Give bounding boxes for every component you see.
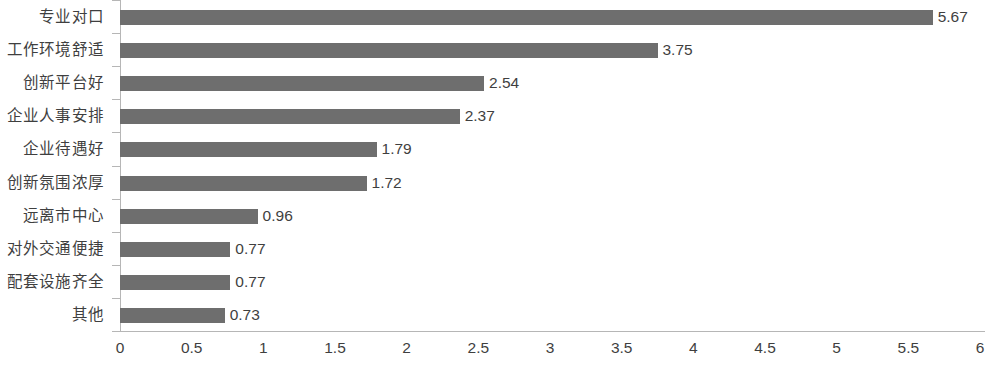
- x-axis-tick-label: 4: [689, 336, 698, 360]
- x-axis-tick-label: 1: [259, 336, 268, 360]
- bar: [120, 43, 658, 58]
- y-axis-category-label: 远离市中心: [23, 208, 104, 224]
- x-axis-tick-label: 0: [116, 336, 125, 360]
- y-axis-tick: [112, 66, 120, 67]
- x-axis-tick-label: 2: [402, 336, 411, 360]
- y-axis-category-label: 对外交通便捷: [7, 241, 104, 257]
- x-axis-tick-label: 5: [832, 336, 841, 360]
- y-axis-tick: [112, 132, 120, 133]
- x-axis-tick-label: 1.5: [324, 336, 346, 360]
- y-axis-category-label: 其他: [72, 307, 104, 323]
- x-axis-tick-label: 6: [976, 336, 985, 360]
- y-axis-category-label: 创新氛围浓厚: [7, 175, 104, 191]
- x-axis-tick-label: 4.5: [754, 336, 776, 360]
- bar-chart: 专业对口工作环境舒适创新平台好企业人事安排企业待遇好创新氛围浓厚远离市中心对外交…: [0, 0, 993, 366]
- bar: [120, 109, 460, 124]
- bar-value-label: 0.96: [263, 208, 293, 224]
- y-axis-category-label: 工作环境舒适: [7, 42, 104, 58]
- y-axis-category-labels: 专业对口工作环境舒适创新平台好企业人事安排企业待遇好创新氛围浓厚远离市中心对外交…: [0, 0, 112, 331]
- x-axis-tick-labels: 00.511.522.533.544.555.56: [0, 336, 993, 364]
- bar: [120, 142, 377, 157]
- bar-value-label: 2.54: [489, 75, 519, 91]
- bar-value-label: 2.37: [465, 108, 495, 124]
- y-axis-tick: [112, 265, 120, 266]
- y-axis-category-label: 专业对口: [39, 9, 104, 25]
- bar-value-label: 1.72: [372, 175, 402, 191]
- y-axis-tick: [112, 0, 120, 1]
- y-axis-category-label: 配套设施齐全: [7, 274, 104, 290]
- bar-value-label: 0.77: [235, 274, 265, 290]
- y-axis-tick: [112, 199, 120, 200]
- y-axis-category-label: 创新平台好: [23, 75, 104, 91]
- x-axis-tick-label: 0.5: [181, 336, 203, 360]
- x-axis-tick-label: 3: [546, 336, 555, 360]
- y-axis-tick: [112, 298, 120, 299]
- x-axis-tick-label: 3.5: [611, 336, 633, 360]
- bar-value-label: 3.75: [663, 42, 693, 58]
- bar-value-label: 1.79: [382, 141, 412, 157]
- y-axis-category-label: 企业待遇好: [23, 141, 104, 157]
- y-axis-tick: [112, 232, 120, 233]
- bar: [120, 209, 258, 224]
- y-axis-category-label: 企业人事安排: [7, 108, 104, 124]
- x-axis-line: [112, 331, 985, 332]
- x-axis-tick-label: 2.5: [468, 336, 490, 360]
- y-axis-tick: [112, 166, 120, 167]
- bar: [120, 242, 230, 257]
- bar-value-label: 0.77: [235, 241, 265, 257]
- bar: [120, 275, 230, 290]
- plot-area: 5.673.752.542.371.791.720.960.770.770.73: [120, 0, 980, 331]
- bar-value-label: 0.73: [230, 307, 260, 323]
- bar: [120, 176, 367, 191]
- bar-value-label: 5.67: [938, 9, 968, 25]
- bar: [120, 308, 225, 323]
- y-axis-tick: [112, 99, 120, 100]
- y-axis-tick: [112, 33, 120, 34]
- bar: [120, 10, 933, 25]
- bar: [120, 76, 484, 91]
- x-axis-tick-label: 5.5: [898, 336, 920, 360]
